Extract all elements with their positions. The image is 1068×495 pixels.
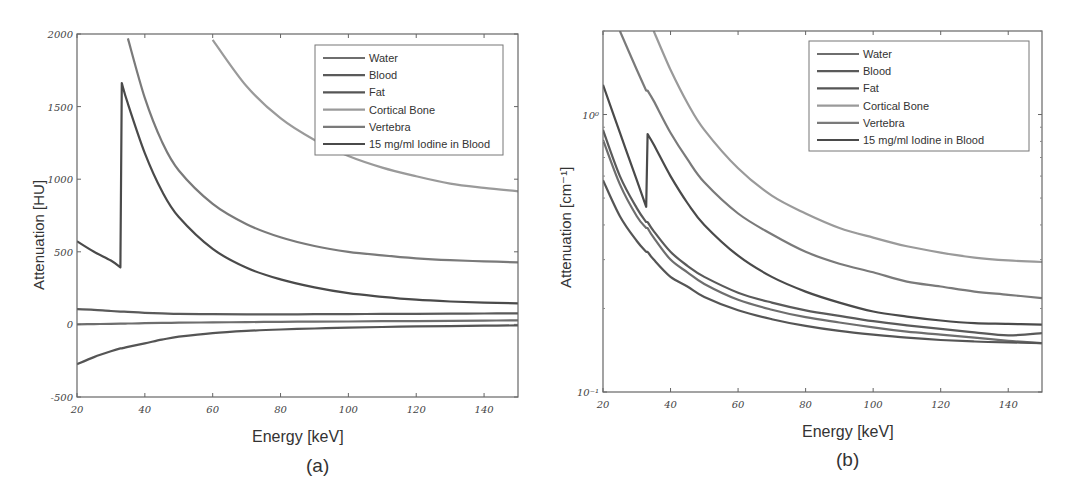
svg-text:500: 500: [54, 247, 74, 258]
svg-text:60: 60: [206, 404, 219, 415]
svg-text:-500: -500: [51, 392, 74, 403]
plot-area-a: 20406080100120140-5000500100015002000Wat…: [0, 0, 534, 495]
svg-text:40: 40: [663, 399, 677, 410]
plot-area-b: 2040608010012014010⁻¹10⁰WaterBloodFatCor…: [534, 0, 1068, 495]
svg-text:20: 20: [596, 399, 610, 410]
legend-item: Cortical Bone: [369, 104, 435, 116]
legend-item: Vertebra: [863, 117, 905, 129]
legend-item: Fat: [863, 82, 879, 94]
legend-item: Blood: [369, 69, 397, 81]
series-line-blood: [603, 130, 1042, 336]
chart-panel-a: 20406080100120140-5000500100015002000Wat…: [0, 0, 534, 495]
svg-text:60: 60: [732, 399, 745, 410]
svg-text:120: 120: [931, 399, 951, 410]
svg-text:1000: 1000: [48, 174, 74, 185]
x-axis-label-b: Energy [keV]: [802, 423, 894, 441]
legend: WaterBloodFatCortical BoneVertebra15 mg/…: [315, 45, 503, 155]
svg-text:140: 140: [475, 404, 495, 415]
svg-text:1500: 1500: [48, 102, 74, 113]
svg-text:120: 120: [407, 404, 427, 415]
legend-item: 15 mg/ml Iodine in Blood: [863, 134, 984, 146]
legend-item: Blood: [863, 65, 891, 77]
y-axis-label-a: Attenuation [HU]: [30, 180, 47, 290]
series-line-fat: [603, 180, 1042, 343]
svg-text:40: 40: [137, 404, 151, 415]
legend-item: 15 mg/ml Iodine in Blood: [369, 138, 490, 150]
chart-panel-b: 2040608010012014010⁻¹10⁰WaterBloodFatCor…: [534, 0, 1068, 495]
svg-text:10⁰: 10⁰: [582, 110, 599, 121]
legend-item: Fat: [369, 86, 385, 98]
svg-text:80: 80: [274, 404, 287, 415]
y-axis-label-b: Attenuation [cm⁻¹]: [557, 167, 575, 288]
svg-text:100: 100: [339, 404, 359, 415]
legend-item: Cortical Bone: [863, 100, 929, 112]
series-line-water: [77, 320, 518, 324]
legend-item: Vertebra: [369, 121, 411, 133]
panel-caption-b: (b): [836, 449, 859, 471]
svg-text:0: 0: [67, 319, 74, 330]
svg-text:2000: 2000: [47, 29, 74, 40]
series-line-fat: [77, 325, 518, 364]
legend: WaterBloodFatCortical BoneVertebra15 mg/…: [809, 41, 1029, 151]
svg-text:10⁻¹: 10⁻¹: [577, 387, 599, 398]
series-line-blood: [77, 309, 518, 314]
x-axis-label-a: Energy [keV]: [252, 428, 344, 446]
svg-text:140: 140: [999, 399, 1019, 410]
svg-text:100: 100: [864, 399, 884, 410]
svg-text:20: 20: [70, 404, 84, 415]
legend-item: Water: [369, 52, 398, 64]
panel-caption-a: (a): [306, 455, 329, 477]
svg-text:80: 80: [799, 399, 812, 410]
legend-item: Water: [863, 48, 892, 60]
